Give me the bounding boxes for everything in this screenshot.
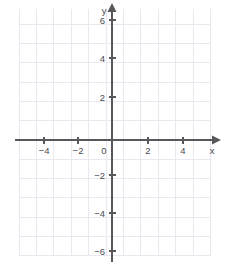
y-axis-label: y: [102, 5, 107, 16]
y-tick-label: 2: [100, 92, 105, 103]
y-tick-label: 4: [100, 53, 105, 64]
y-tick-label: −2: [94, 170, 105, 181]
y-tick-label: 6: [100, 15, 105, 26]
y-tick-label: −6: [94, 246, 105, 257]
y-axis-tick-labels: 6 4 2 −2 −4 −6: [94, 15, 105, 257]
y-tick-label: −4: [94, 208, 105, 219]
x-axis: [15, 136, 221, 145]
coordinate-graph: −4 −2 0 2 4 6 4 2 −2 −4 −6 x y: [0, 0, 227, 273]
x-tick-label: 4: [180, 145, 185, 156]
x-axis-label: x: [210, 145, 215, 156]
x-tick-label: −2: [73, 145, 84, 156]
y-axis-arrow-icon: [108, 3, 117, 12]
x-tick-label: −4: [39, 145, 50, 156]
coordinate-plane-svg: −4 −2 0 2 4 6 4 2 −2 −4 −6 x y: [0, 0, 227, 273]
x-axis-arrow-icon: [212, 136, 221, 145]
x-tick-label: 2: [145, 145, 150, 156]
y-axis: [108, 3, 117, 262]
x-tick-label-origin: 0: [101, 145, 106, 156]
gridlines-vertical: [19, 9, 210, 256]
